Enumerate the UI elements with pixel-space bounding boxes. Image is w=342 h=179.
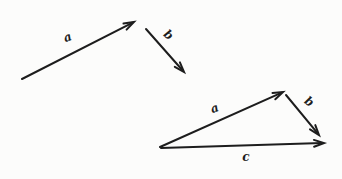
vector-triangle-b: b (286, 94, 319, 135)
vector-triangle-c: c (161, 140, 324, 164)
vector-free-b-label: b (161, 27, 176, 43)
vector-triangle-c-line (161, 143, 322, 148)
vector-free-b: b (146, 27, 184, 72)
vector-triangle-a: a (160, 92, 283, 147)
vector-diagram-canvas: a b a b c (0, 0, 342, 179)
vector-diagram-svg: a b a b c (0, 0, 342, 179)
vector-triangle-c-label: c (242, 150, 250, 164)
vector-triangle-a-line (160, 93, 281, 147)
vector-free-a: a (22, 22, 134, 79)
vector-free-a-label: a (62, 29, 74, 45)
vector-triangle-a-label: a (209, 100, 221, 116)
vector-free-a-line (22, 23, 132, 79)
vector-triangle-b-label: b (302, 94, 317, 110)
